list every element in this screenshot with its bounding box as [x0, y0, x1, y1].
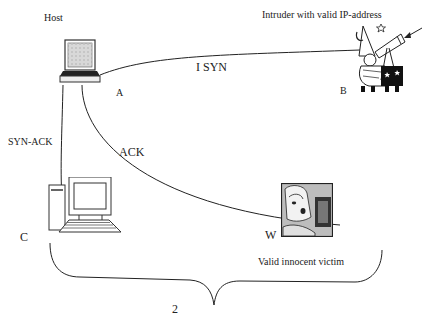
brace-label: 2 [172, 303, 178, 315]
wizard-telescope-icon [355, 20, 415, 92]
victim-woman-icon [281, 183, 333, 237]
desktop-computer-icon [47, 177, 125, 237]
syn-label: I SYN [196, 61, 227, 73]
node-a-label: A [116, 88, 123, 98]
laptop-icon [58, 38, 104, 86]
ack-label: ACK [119, 146, 144, 158]
intruder-caption: Intruder with valid IP-address [262, 10, 382, 20]
node-c-label: C [20, 231, 28, 243]
victim-caption: Valid innocent victim [258, 257, 344, 267]
curly-brace [50, 243, 382, 305]
syn-edge [100, 50, 360, 75]
host-caption: Host [44, 13, 63, 23]
syn-ack-label: SYN-ACK [8, 137, 52, 147]
node-b-label: B [340, 86, 347, 96]
node-w-label: W [265, 229, 276, 241]
